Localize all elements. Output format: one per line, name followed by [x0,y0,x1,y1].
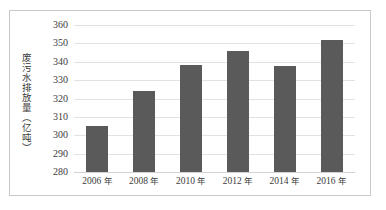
y-axis-tick-label: 330 [28,74,74,85]
bar-slot [168,25,215,172]
x-axis-tick-label: 2012 年 [223,174,253,186]
bar [180,65,202,172]
bar [274,66,296,172]
x-axis-tick-label: 2006 年 [82,174,112,186]
bar-slot [74,25,121,172]
bar [321,40,343,172]
bar [227,51,249,172]
plot-area: 360350340330320310300290280 [74,25,355,172]
bar-slot [261,25,308,172]
x-axis-tick-label: 2016 年 [316,174,346,186]
y-axis-tick-label: 290 [28,148,74,159]
y-axis-tick-label: 360 [28,19,74,30]
bar [86,126,108,172]
bar-slot [215,25,262,172]
y-axis-tick-label: 350 [28,37,74,48]
gridline: 280 [74,172,355,173]
y-axis-tick-label: 320 [28,93,74,104]
x-axis-tick-labels: 2006 年2008 年2010 年2012 年2014 年2016 年 [74,174,355,194]
x-axis-tick-label: 2014 年 [270,174,300,186]
y-axis-tick-label: 300 [28,129,74,140]
y-axis-tick-label: 340 [28,56,74,67]
x-axis-tick-label: 2010 年 [176,174,206,186]
chart-figure: 废污水排放量（亿吨） 360350340330320310300290280 2… [9,10,371,196]
y-axis-tick-label: 310 [28,111,74,122]
bar-slot [121,25,168,172]
bar-series [74,25,355,172]
y-axis-tick-label: 280 [28,166,74,177]
bar [133,91,155,172]
bar-slot [308,25,355,172]
x-axis-tick-label: 2008 年 [129,174,159,186]
